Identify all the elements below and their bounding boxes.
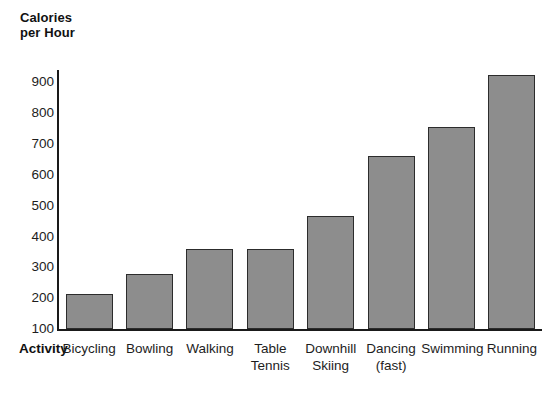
y-axis-tick-label: 400 (14, 230, 54, 244)
x-axis-tick-label: Walking (180, 340, 240, 357)
x-axis-tick-label: Bicycling (59, 340, 119, 357)
y-axis-tick-label: 500 (14, 199, 54, 213)
x-axis-tick-labels: Activity BicyclingBowlingWalkingTable Te… (0, 340, 550, 395)
x-axis-line (57, 329, 542, 331)
x-axis-tick-label: Table Tennis (240, 340, 300, 374)
bar (428, 127, 475, 329)
bar (368, 156, 415, 329)
y-axis-tick-label: 200 (14, 291, 54, 305)
y-axis-tick-label: 100 (14, 322, 54, 336)
chart-title: Calories per Hour (20, 10, 75, 40)
bar-chart: Calories per Hour 1002003004005006007008… (0, 0, 550, 397)
x-axis-tick-label: Downhill Skiing (301, 340, 361, 374)
y-axis-tick-label: 300 (14, 260, 54, 274)
y-axis-tick-label: 600 (14, 168, 54, 182)
bar-series (59, 70, 542, 329)
bar (126, 274, 173, 330)
y-axis-tick-label: 900 (14, 75, 54, 89)
x-axis-tick-label: Bowling (119, 340, 179, 357)
x-axis-tick-label: Dancing (fast) (361, 340, 421, 374)
bar (307, 216, 354, 329)
x-axis-tick-label: Swimming (421, 340, 481, 357)
y-axis-tick-label: 800 (14, 106, 54, 120)
bar (247, 249, 294, 329)
bar (488, 75, 535, 329)
bar (186, 249, 233, 329)
plot-area (57, 70, 542, 331)
bar (66, 294, 113, 329)
y-axis-tick-label: 700 (14, 137, 54, 151)
x-axis-tick-label: Running (482, 340, 542, 357)
